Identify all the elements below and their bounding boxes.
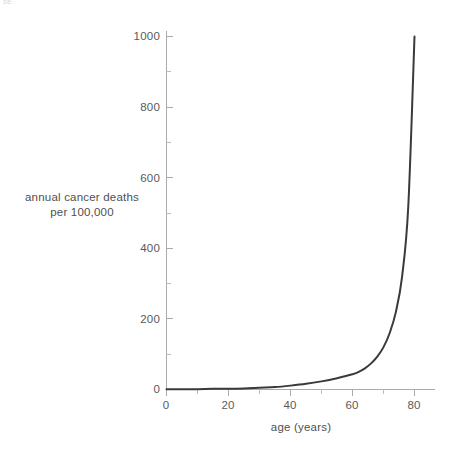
y-tick-label-0: 0	[118, 383, 160, 395]
y-axis-title-line-1: annual cancer deaths	[8, 190, 156, 205]
y-axis-title: annual cancer deaths per 100,000	[8, 190, 156, 220]
x-tick-label-40: 40	[283, 399, 296, 411]
y-tick-label-600: 600	[118, 172, 160, 184]
y-tick-label-800: 800	[118, 101, 160, 113]
y-tick-label-400: 400	[118, 242, 160, 254]
y-tick-label-1000: 1000	[118, 30, 160, 42]
cancer-death-rate-curve	[167, 37, 415, 390]
x-tick-label-60: 60	[345, 399, 358, 411]
x-tick-label-20: 20	[221, 399, 234, 411]
y-tick-label-200: 200	[118, 313, 160, 325]
x-axis-title: age (years)	[166, 420, 436, 434]
chart-figure: se	[0, 0, 462, 453]
y-axis-title-line-2: per 100,000	[8, 205, 156, 220]
x-tick-label-80: 80	[407, 399, 420, 411]
plot-canvas	[0, 0, 462, 453]
axis-lines	[166, 31, 435, 390]
x-axis-major-ticks	[167, 389, 415, 396]
x-tick-label-0: 0	[163, 399, 170, 411]
